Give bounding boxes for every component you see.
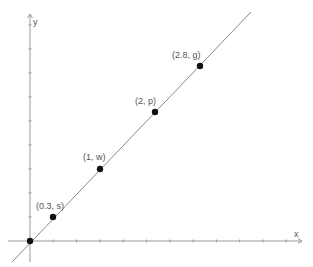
data-point xyxy=(152,109,158,115)
y-axis-label: y xyxy=(33,17,38,27)
y-axis: y xyxy=(28,14,39,262)
point-label: (1, w) xyxy=(83,152,106,162)
data-point xyxy=(197,63,203,69)
data-point xyxy=(27,238,33,244)
data-point xyxy=(50,214,56,220)
data-point xyxy=(97,166,103,172)
point-label: (0.3, s) xyxy=(36,201,64,211)
data-points: (0.3, s)(1, w)(2, p)(2.8, g) xyxy=(27,50,203,244)
linear-function-line xyxy=(12,12,251,262)
coordinate-diagram: x y (0.3, s)(1, w)(2, p)(2.8, g) xyxy=(0,0,313,267)
point-label: (2.8, g) xyxy=(172,50,201,60)
point-label: (2, p) xyxy=(135,96,156,106)
x-axis: x xyxy=(8,229,302,244)
x-axis-label: x xyxy=(294,229,299,239)
